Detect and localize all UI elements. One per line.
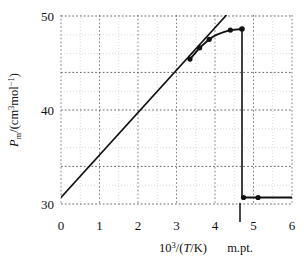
y-tick-label: 40	[41, 103, 54, 118]
data-point	[197, 45, 202, 50]
x-tick-label: 5	[250, 218, 257, 233]
x-tick-label: 1	[96, 218, 103, 233]
data-point	[228, 28, 233, 33]
x-tick-label: 2	[135, 218, 142, 233]
chart-figure: 0 1 2 3 4 5 6 50 40 30 103/(T/K) m.pt. P…	[0, 0, 306, 270]
x-tick-label: 3	[173, 218, 180, 233]
data-point	[187, 57, 192, 62]
data-point	[239, 26, 245, 32]
x-tick-labels: 0 1 2 3 4 5 6	[58, 218, 296, 233]
y-tick-label: 50	[41, 9, 54, 24]
chart-svg: 0 1 2 3 4 5 6 50 40 30 103/(T/K) m.pt. P…	[0, 0, 306, 270]
data-point	[241, 195, 246, 200]
x-tick-label: 0	[58, 218, 65, 233]
y-axis-title: Pm/(cm3mol−1)	[6, 73, 24, 148]
x-axis-title: 103/(T/K)	[159, 240, 207, 256]
y-tick-labels: 50 40 30	[41, 9, 54, 212]
x-tick-label: 6	[289, 218, 296, 233]
melting-point-label: m.pt.	[227, 241, 253, 255]
x-tick-label: 4	[212, 218, 219, 233]
y-tick-label: 30	[41, 197, 54, 212]
data-point	[207, 37, 212, 42]
data-point	[256, 195, 261, 200]
